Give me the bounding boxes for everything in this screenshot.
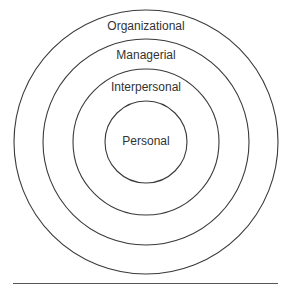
label-interpersonal: Interpersonal	[111, 80, 181, 94]
label-personal: Personal	[122, 134, 169, 148]
label-managerial: Managerial	[116, 48, 175, 62]
label-organizational: Organizational	[107, 19, 184, 33]
caption-divider	[13, 283, 278, 284]
